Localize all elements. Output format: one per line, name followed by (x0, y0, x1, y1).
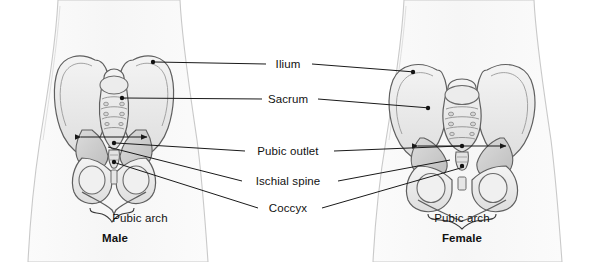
female-pubic-arch-label: Pubic arch (434, 213, 489, 225)
callout-label-coccyx: Coccyx (269, 203, 307, 215)
callout-label-sacrum: Sacrum (268, 94, 308, 106)
female-panel-title: Female (442, 233, 482, 245)
pelvis-comparison-figure: Ilium Sacrum Pubic outlet Ischial spine … (0, 0, 589, 262)
male-coccyx (109, 150, 120, 168)
callout-label-ilium: Ilium (276, 59, 301, 71)
female-obturator-foramen-right (479, 174, 507, 203)
female-pubic-symphysis (458, 177, 466, 190)
male-pubic-outlet-point (112, 141, 116, 145)
male-coccyx-point (112, 160, 116, 164)
male-ilium-point (151, 60, 155, 64)
callout-label-pubic-outlet: Pubic outlet (257, 146, 318, 158)
male-l5-vertebra (100, 76, 128, 94)
male-obturator-foramen-right (123, 166, 149, 194)
female-pubic-outlet-point (460, 144, 464, 148)
pelvis-diagram-svg (0, 0, 589, 262)
male-sacrum-point (120, 96, 124, 100)
male-obturator-foramen-left (79, 166, 105, 194)
female-obturator-foramen-left (417, 174, 445, 203)
male-panel-title: Male (102, 233, 128, 245)
callout-label-ischial-spine: Ischial spine (256, 176, 321, 188)
female-l5-vertebra (445, 86, 479, 105)
male-pubic-symphysis (111, 170, 117, 184)
male-pubic-arch-label: Pubic arch (112, 213, 167, 225)
